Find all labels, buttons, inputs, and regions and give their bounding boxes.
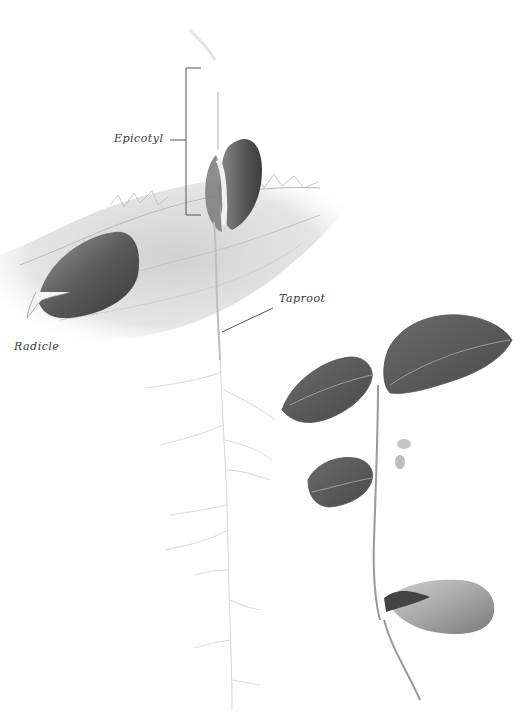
botanical-illustration: Epicotyl Radicle Taproot — [0, 0, 529, 725]
oak-seedling — [282, 315, 512, 700]
taproot-leader-line — [222, 308, 273, 332]
illustration-artwork — [0, 0, 529, 725]
taproot-label: Taproot — [279, 292, 326, 305]
epicotyl-label: Epicotyl — [114, 132, 164, 145]
root-system — [145, 360, 275, 710]
radicle-label: Radicle — [14, 340, 59, 353]
